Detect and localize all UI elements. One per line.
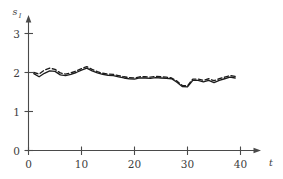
x-tick-label-40: 40	[234, 158, 247, 170]
y-tick-label-2: 2	[13, 67, 20, 79]
x-tick-label-20: 20	[128, 158, 141, 170]
y-axis-title-subscript: I	[18, 12, 22, 20]
y-tick-label-0: 0	[13, 145, 20, 157]
x-tick-label-30: 30	[181, 158, 194, 170]
series-solid-line	[34, 68, 235, 87]
y-tick-label-3: 3	[13, 28, 20, 40]
chart-figure: 0 1 2 3 0 10 20 30 40 t s I	[0, 0, 283, 179]
x-tick-label-0: 0	[25, 158, 32, 170]
x-tick-label-10: 10	[75, 158, 88, 170]
line-chart: 0 1 2 3 0 10 20 30 40 t s I	[0, 0, 283, 179]
x-axis-arrow-icon	[254, 148, 262, 154]
y-tick-label-1: 1	[13, 106, 20, 118]
y-axis-arrow-icon	[26, 15, 32, 23]
x-axis-title: t	[269, 157, 273, 168]
y-axis-title: s	[13, 6, 18, 17]
series-dashed-line	[34, 67, 235, 86]
